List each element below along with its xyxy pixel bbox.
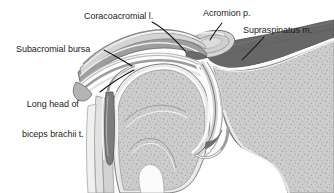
- label-acromion-process: Acromion p.: [203, 8, 250, 18]
- label-biceps-line-2: biceps brachii t.: [22, 129, 84, 139]
- label-supraspinatus-muscle: Supraspinatus m.: [243, 25, 312, 35]
- humeral-head-group: [112, 64, 210, 193]
- label-biceps-line-1: Long head of: [22, 99, 84, 109]
- label-subacromial-bursa: Subacromial bursa: [16, 44, 90, 54]
- label-coracoacromial-ligament: Coracoacromial l.: [84, 11, 153, 21]
- label-biceps-long-head: Long head of biceps brachii t.: [22, 79, 84, 159]
- anatomy-figure: Coracoacromial l. Acromion p. Supraspina…: [0, 0, 334, 193]
